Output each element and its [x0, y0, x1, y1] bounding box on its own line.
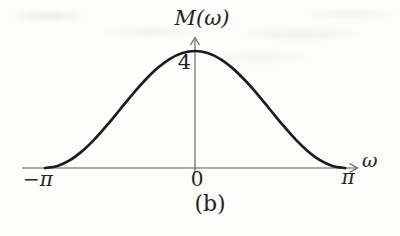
x-tick-neg-pi: −π [18, 169, 58, 190]
figure-caption: (b) [183, 192, 237, 215]
figure-b: M(ω) 4 −π 0 π ω (b) [0, 0, 400, 236]
chart-title: M(ω) [165, 7, 239, 29]
x-tick-pi: π [336, 167, 360, 188]
y-tick-4: 4 [168, 51, 191, 73]
x-axis-label: ω [362, 151, 378, 171]
x-tick-0: 0 [185, 169, 209, 190]
